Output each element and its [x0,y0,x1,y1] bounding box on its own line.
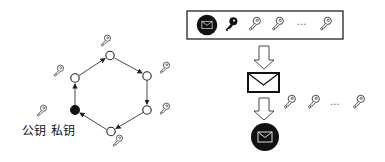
ring-node-upper-right [143,72,151,80]
down-arrow-icon [254,98,274,120]
key-icon [113,135,122,146]
ring-node-lower-right [143,106,151,114]
message-envelope-icon [248,73,279,92]
key-icon [54,65,63,76]
ring-node-signer [71,106,80,115]
down-arrow-icon [254,46,274,69]
key-icon [353,95,364,108]
key-icon [160,103,169,114]
private-key-label: 私钥 [51,121,75,138]
public-key-icon [37,105,46,116]
key-icon [284,95,295,108]
ring-node-upper-left [71,74,79,82]
ring-node-bottom [107,127,115,135]
key-icon [160,62,169,73]
result-message-icon [251,123,279,151]
verify-keys-ellipsis: ... [330,96,340,107]
public-key-label: 公钥 [22,121,46,138]
signature-box-ellipsis: ... [297,16,307,27]
encrypted-message-icon [197,15,218,36]
ring-node-top [106,51,114,59]
key-icon [101,35,110,46]
ring-edges [75,58,147,130]
key-icon [308,95,319,108]
ring-nodes [71,51,152,135]
